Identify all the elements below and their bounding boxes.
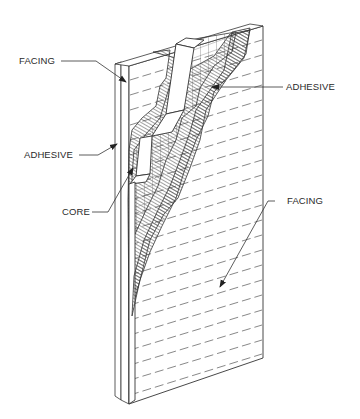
label-core: CORE	[62, 207, 90, 217]
label-facing-top: FACING	[19, 56, 55, 66]
label-adhesive-right: ADHESIVE	[286, 82, 335, 92]
leader-adhesive-left	[79, 144, 117, 155]
label-adhesive-left: ADHESIVE	[24, 150, 73, 160]
sandwich-panel-diagram: FACING ADHESIVE ADHESIVE CORE FACING	[0, 0, 360, 419]
label-facing-bottom: FACING	[287, 196, 323, 206]
